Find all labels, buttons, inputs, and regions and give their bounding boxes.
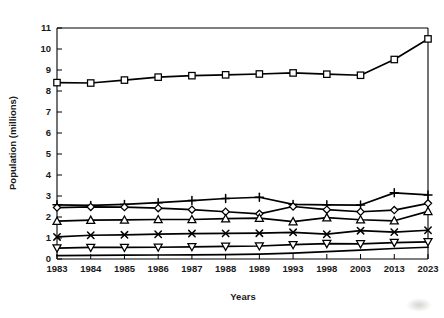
- data-point-square: [54, 79, 60, 85]
- series-cross-line: [57, 230, 428, 237]
- series-diamond: [53, 200, 431, 218]
- data-point-plus: [188, 197, 196, 205]
- y-tick-label: 4: [46, 169, 52, 180]
- y-tick-label: 6: [46, 127, 51, 138]
- y-axis-ticks: 01234567891011: [40, 22, 62, 264]
- y-tick-label: 10: [40, 43, 51, 54]
- plot-frame: [57, 28, 428, 259]
- series-triangle-down-line: [57, 242, 428, 248]
- x-tick-label: 1985: [114, 263, 136, 274]
- series-cross: [54, 227, 431, 240]
- x-tick-label: 1989: [249, 263, 270, 274]
- data-point-plus: [390, 189, 398, 197]
- x-tick-label: 1987: [181, 263, 202, 274]
- data-point-square: [324, 71, 330, 77]
- y-tick-label: 5: [46, 148, 52, 159]
- series-layer: [53, 36, 432, 256]
- y-tick-label: 7: [46, 106, 51, 117]
- x-axis-title: Years: [230, 291, 255, 302]
- data-point-plus: [255, 193, 263, 201]
- series-triangle-up: [53, 207, 432, 224]
- x-tick-label: 1993: [283, 263, 304, 274]
- data-point-diamond: [155, 205, 162, 212]
- data-point-plus: [222, 195, 230, 203]
- data-point-diamond: [424, 200, 431, 207]
- x-tick-label: 1986: [148, 263, 169, 274]
- data-point-square: [357, 72, 363, 78]
- series-square-line: [57, 39, 428, 83]
- data-point-diamond: [357, 208, 364, 215]
- data-point-square: [256, 71, 262, 77]
- series-baseline-line: [57, 247, 428, 255]
- data-point-plus: [424, 191, 432, 199]
- data-point-square: [290, 70, 296, 76]
- data-point-square: [189, 72, 195, 78]
- x-tick-label: 1998: [316, 263, 337, 274]
- series-baseline: [57, 247, 428, 255]
- data-point-diamond: [188, 206, 195, 213]
- population-line-chart: 01234567891011 1983198419851986198719881…: [0, 0, 444, 318]
- y-tick-label: 2: [46, 211, 51, 222]
- x-axis-ticks: 1983198419851986198719881989199319982003…: [46, 254, 438, 274]
- x-tick-label: 2003: [350, 263, 371, 274]
- y-tick-label: 3: [46, 190, 51, 201]
- x-tick-label: 1984: [80, 263, 102, 274]
- x-tick-label: 2013: [384, 263, 405, 274]
- series-square: [54, 36, 431, 87]
- data-point-square: [425, 36, 431, 42]
- series-plus-line: [57, 193, 428, 206]
- data-point-square: [155, 74, 161, 80]
- y-tick-label: 11: [41, 22, 52, 33]
- y-tick-label: 9: [46, 64, 51, 75]
- chart-canvas: 01234567891011 1983198419851986198719881…: [0, 0, 444, 318]
- x-tick-label: 1983: [46, 263, 67, 274]
- y-axis-title: Population (millions): [7, 96, 18, 190]
- data-point-triangle-up: [424, 207, 432, 214]
- x-tick-label: 2023: [417, 263, 438, 274]
- data-point-diamond: [87, 203, 94, 210]
- data-point-square: [88, 80, 94, 86]
- data-point-diamond: [391, 206, 398, 213]
- y-tick-label: 1: [46, 232, 52, 243]
- y-tick-label: 8: [46, 85, 51, 96]
- data-point-diamond: [323, 206, 330, 213]
- data-point-square: [391, 56, 397, 62]
- x-tick-label: 1988: [215, 263, 236, 274]
- data-point-square: [121, 77, 127, 83]
- data-point-square: [222, 72, 228, 78]
